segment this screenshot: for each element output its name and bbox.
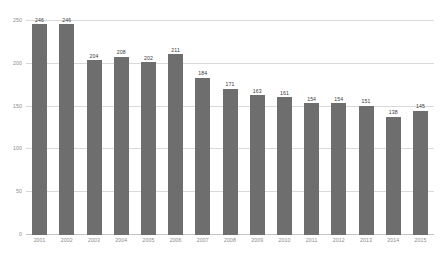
bar[interactable]: 204 [87, 60, 102, 235]
bar-value-label: 184 [198, 70, 207, 76]
bar-value-label: 211 [171, 47, 180, 53]
bar-value-label: 145 [416, 103, 425, 109]
x-axis-tick-label: 2006 [162, 237, 189, 243]
x-axis-tick-label: 2001 [26, 237, 53, 243]
bar[interactable]: 202 [141, 62, 156, 235]
bar-value-label: 163 [253, 88, 262, 94]
x-axis-tick-label: 2008 [216, 237, 243, 243]
x-axis-tick-label: 2002 [53, 237, 80, 243]
bar[interactable]: 161 [277, 97, 292, 235]
x-axis-tick-label: 2012 [325, 237, 352, 243]
bar-slot: 171 [216, 21, 243, 235]
x-axis-tick-label: 2013 [352, 237, 379, 243]
bar[interactable]: 246 [32, 24, 47, 235]
x-axis-tick-label: 2007 [189, 237, 216, 243]
bar-value-label: 246 [35, 17, 44, 23]
bar-value-label: 154 [334, 96, 343, 102]
bar-value-label: 154 [307, 96, 316, 102]
bar-chart: 050100150200250 246246204208202211184171… [0, 0, 440, 260]
bar-value-label: 151 [362, 98, 371, 104]
y-axis-tick-label: 100 [13, 145, 22, 151]
bar[interactable]: 208 [114, 57, 129, 235]
bar-slot: 161 [271, 21, 298, 235]
bar-value-label: 246 [62, 17, 71, 23]
bar-slot: 204 [80, 21, 107, 235]
bar-value-label: 138 [389, 109, 398, 115]
bar[interactable]: 246 [59, 24, 74, 235]
bar-slot: 246 [53, 21, 80, 235]
plot-area: 050100150200250 246246204208202211184171… [26, 21, 434, 235]
bar-slot: 154 [298, 21, 325, 235]
x-axis-tick-label: 2010 [271, 237, 298, 243]
bar-slot: 154 [325, 21, 352, 235]
y-axis-tick-label: 250 [13, 17, 22, 23]
bar[interactable]: 138 [386, 117, 401, 235]
bar[interactable]: 184 [195, 78, 210, 236]
y-axis-tick-label: 0 [19, 231, 22, 237]
bar[interactable]: 154 [304, 103, 319, 235]
bar-value-label: 204 [90, 53, 99, 59]
bar[interactable]: 171 [223, 89, 238, 235]
bar-series: 2462462042082022111841711631611541541511… [26, 21, 434, 235]
y-axis-tick-label: 200 [13, 60, 22, 66]
bar[interactable]: 163 [250, 95, 265, 235]
bar-slot: 208 [108, 21, 135, 235]
x-axis: 2001200220032004200520062007200820092010… [26, 237, 434, 243]
bar-slot: 202 [135, 21, 162, 235]
bar[interactable]: 211 [168, 54, 183, 235]
bar-slot: 151 [352, 21, 379, 235]
bar-slot: 246 [26, 21, 53, 235]
x-axis-tick-label: 2009 [244, 237, 271, 243]
bar-slot: 211 [162, 21, 189, 235]
bar[interactable]: 151 [359, 106, 374, 235]
x-axis-tick-label: 2004 [108, 237, 135, 243]
x-axis-tick-label: 2015 [407, 237, 434, 243]
x-axis-tick-label: 2005 [135, 237, 162, 243]
x-axis-tick-label: 2003 [80, 237, 107, 243]
bar-slot: 145 [407, 21, 434, 235]
bar-value-label: 161 [280, 90, 289, 96]
bar[interactable]: 145 [413, 111, 428, 235]
y-axis-tick-label: 50 [16, 188, 22, 194]
bar-slot: 163 [244, 21, 271, 235]
x-axis-tick-label: 2011 [298, 237, 325, 243]
bar-value-label: 171 [226, 81, 235, 87]
bar-value-label: 208 [117, 49, 126, 55]
bar-slot: 184 [189, 21, 216, 235]
x-axis-tick-label: 2014 [380, 237, 407, 243]
y-axis-tick-label: 150 [13, 103, 22, 109]
bar-slot: 138 [380, 21, 407, 235]
bar-value-label: 202 [144, 55, 153, 61]
bar[interactable]: 154 [331, 103, 346, 235]
